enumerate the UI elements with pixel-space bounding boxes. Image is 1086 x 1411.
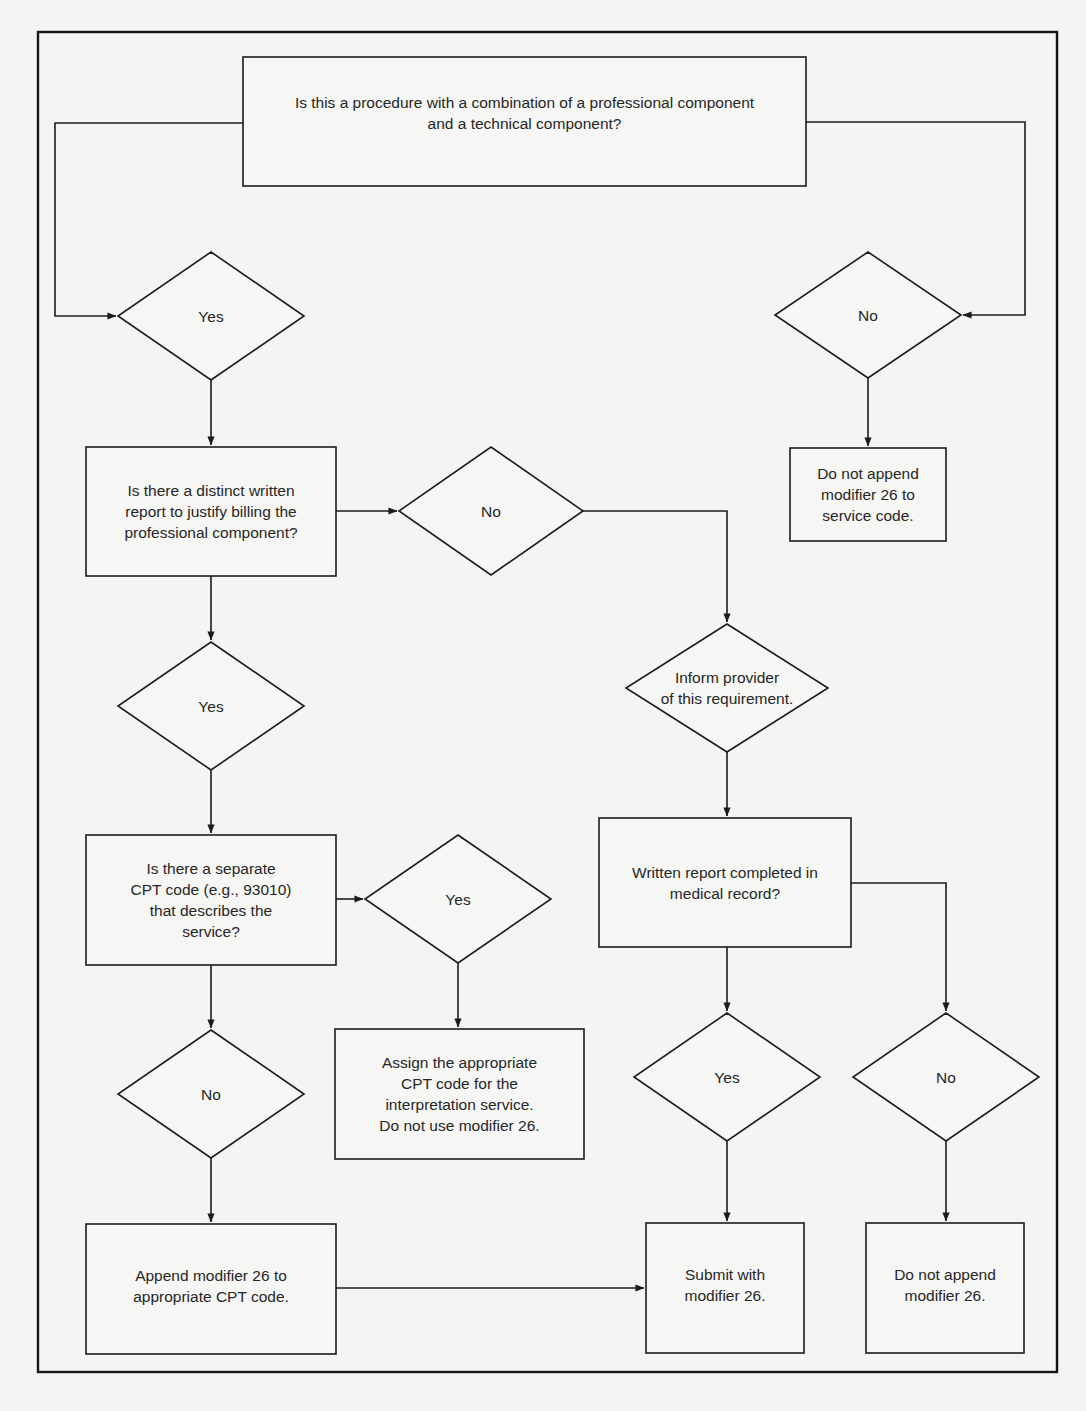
box-submit [646,1223,804,1353]
box-q-combination [243,57,806,186]
diamond-yes-1 [118,252,304,380]
diamond-no-1 [775,252,961,378]
box-q-separate-cpt [86,835,336,965]
diamond-inform [626,624,828,752]
box-append-mod [86,1224,336,1354]
box-no-append [866,1223,1024,1353]
box-assign-cpt [335,1029,584,1159]
edge-written-completed-to-no-4 [851,883,946,1011]
diamond-no-4 [853,1013,1039,1141]
box-no-mod-service [790,448,946,541]
diamond-yes-4 [634,1013,820,1141]
edge-no-2-to-inform [583,511,727,622]
flowchart-canvas [0,0,1086,1411]
diamond-yes-3 [365,835,551,963]
diamond-no-3 [118,1030,304,1158]
diamond-yes-2 [118,642,304,770]
box-q-written-report [86,447,336,576]
box-written-completed [599,818,851,947]
diamond-no-2 [399,447,583,575]
